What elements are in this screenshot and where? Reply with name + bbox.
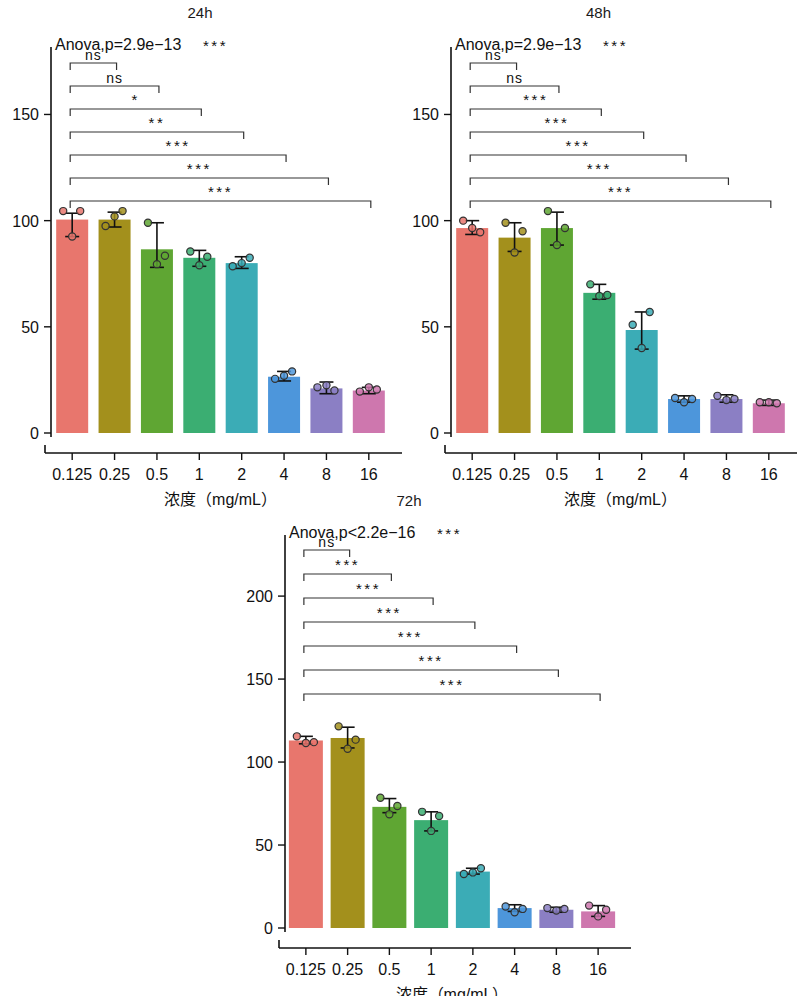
data-point <box>502 903 509 910</box>
bar <box>583 293 615 433</box>
significance-bracket <box>70 109 201 116</box>
data-point <box>629 321 636 328</box>
x-tick-label: 4 <box>510 961 519 978</box>
data-point <box>765 399 772 406</box>
data-point <box>638 344 645 351</box>
chart-24h: 0501001500.1250.250.5124816浓度（mg/mL）nsns… <box>0 0 400 500</box>
significance-label: *** <box>587 160 612 177</box>
bar <box>331 738 365 928</box>
significance-bracket <box>70 201 371 208</box>
data-point <box>469 869 476 876</box>
data-point <box>671 394 678 401</box>
data-point <box>519 905 526 912</box>
significance-bracket <box>470 63 516 70</box>
x-tick-label: 8 <box>322 466 331 483</box>
x-tick-label: 2 <box>237 466 246 483</box>
anova-annotation: Anova,p<2.2e−16 <box>289 524 415 541</box>
x-tick-label: 4 <box>280 466 289 483</box>
data-point <box>229 263 236 270</box>
significance-label: ** <box>149 114 166 131</box>
anova-stars: *** <box>203 37 228 54</box>
x-tick-label: 0.5 <box>546 466 568 483</box>
data-point <box>144 219 151 226</box>
data-point <box>553 241 560 248</box>
significance-bracket <box>304 598 433 605</box>
data-point <box>553 907 560 914</box>
x-tick-label: 8 <box>722 466 731 483</box>
data-point <box>587 281 594 288</box>
y-tick-label: 0 <box>264 920 273 937</box>
anova-annotation: Anova,p=2.9e−13 <box>455 36 581 53</box>
y-tick-label: 100 <box>246 754 273 771</box>
bar <box>456 228 488 433</box>
x-tick-label: 0.5 <box>146 466 168 483</box>
data-point <box>111 213 118 220</box>
data-point <box>323 382 330 389</box>
data-point <box>344 745 351 752</box>
significance-label: *** <box>439 676 464 693</box>
bar <box>310 388 342 433</box>
bar <box>372 807 406 928</box>
x-tick-label: 2 <box>637 466 646 483</box>
significance-bracket <box>470 201 771 208</box>
y-tick-label: 50 <box>21 319 39 336</box>
data-point <box>187 248 194 255</box>
data-point <box>77 207 84 214</box>
data-point <box>436 812 443 819</box>
data-point <box>756 399 763 406</box>
data-point <box>773 400 780 407</box>
data-point <box>596 292 603 299</box>
panel-title-72h: 72h <box>199 492 619 509</box>
y-tick-label: 150 <box>246 671 273 688</box>
y-tick-label: 0 <box>30 425 39 442</box>
data-point <box>723 396 730 403</box>
data-point <box>271 375 278 382</box>
data-point <box>460 217 467 224</box>
significance-label: *** <box>356 580 381 597</box>
x-tick-label: 0.125 <box>52 466 92 483</box>
panel-48h: 48h 0501001500.1250.250.5124816浓度（mg/mL）… <box>400 0 797 500</box>
data-point <box>246 254 253 261</box>
significance-bracket <box>70 178 328 185</box>
significance-bracket <box>70 132 244 139</box>
bar <box>141 249 173 433</box>
x-tick-label: 8 <box>552 961 561 978</box>
data-point <box>586 902 593 909</box>
y-tick-label: 150 <box>412 106 439 123</box>
data-point <box>603 906 610 913</box>
y-tick-label: 50 <box>255 837 273 854</box>
anova-annotation: Anova,p=2.9e−13 <box>55 36 181 53</box>
significance-label: *** <box>398 628 423 645</box>
significance-bracket <box>470 132 644 139</box>
y-tick-label: 100 <box>412 213 439 230</box>
data-point <box>714 392 721 399</box>
data-point <box>196 262 203 269</box>
data-point <box>238 260 245 267</box>
significance-label: *** <box>523 91 548 108</box>
chart-48h: 0501001500.1250.250.5124816浓度（mg/mL）nsns… <box>400 0 797 500</box>
significance-bracket <box>70 63 116 70</box>
data-point <box>102 222 109 229</box>
data-point <box>386 811 393 818</box>
x-tick-label: 1 <box>427 961 436 978</box>
bar <box>541 228 573 433</box>
significance-label: ns <box>506 70 523 86</box>
data-point <box>477 865 484 872</box>
data-point <box>288 368 295 375</box>
significance-label: *** <box>187 160 212 177</box>
panel-title-24h: 24h <box>0 4 400 21</box>
data-point <box>428 827 435 834</box>
data-point <box>314 384 321 391</box>
x-tick-label: 0.25 <box>99 466 130 483</box>
data-point <box>394 802 401 809</box>
anova-stars: *** <box>437 525 462 542</box>
bar <box>268 377 300 433</box>
panel-72h: 72h 0501001502000.1250.250.5124816浓度（mg/… <box>199 488 619 996</box>
bar <box>183 258 215 433</box>
significance-label: *** <box>166 137 191 154</box>
x-tick-label: 16 <box>589 961 607 978</box>
significance-label: *** <box>208 183 233 200</box>
bar <box>353 391 385 433</box>
data-point <box>365 384 372 391</box>
significance-bracket <box>304 646 517 653</box>
